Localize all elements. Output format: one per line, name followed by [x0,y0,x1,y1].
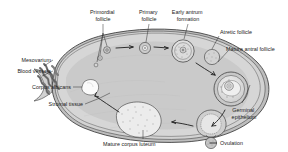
label-ovulation: Ovulation [220,140,243,146]
label-primordial-follicle: Primordial follicle [90,9,116,22]
label-early-antrum-formation: Early antrum formation [172,9,204,22]
early-antrum-follicle [172,40,194,62]
ovulating-follicle [197,110,226,138]
atretic-follicle [204,49,219,64]
label-atretic-follicle: Atretic follicle [220,29,252,35]
label-mesovarium: Mesovarium [21,57,51,63]
ovary-diagram-figure: Primordial follicle Primary follicle Ear… [0,0,288,152]
label-blood-vessels: Blood vessels [17,68,51,74]
label-mature-corpus-luteum: Mature corpus luteum [103,141,156,147]
label-primary-follicle: Primary follicle [139,9,159,22]
primary-follicle [139,42,150,53]
label-stromal-tissue: Stromal tissue [49,101,83,107]
label-germinal-epithelium: Germinal epithelium [232,107,257,120]
label-corpus-albicans: Corpus albicans [32,84,71,90]
label-mature-antral-follicle: Mature antral follicle [226,46,275,52]
